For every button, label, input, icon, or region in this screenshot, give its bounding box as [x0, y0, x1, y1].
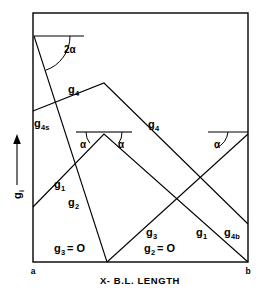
zero-label-g2-sub: 2 — [151, 248, 155, 257]
corner-label-b: b — [245, 266, 250, 276]
zero-label-g2-eq: = O — [157, 242, 175, 254]
angle-alpha-left-label: α — [80, 139, 87, 150]
curve-label-g1-left-base: g — [54, 178, 61, 190]
curve-label-g4s-sub: 4s — [41, 123, 49, 132]
curve-label-g4b-base: g — [224, 226, 231, 238]
arc-alpha-left — [86, 132, 90, 143]
line-g4 — [33, 83, 248, 224]
y-axis-arrow-head — [13, 134, 21, 144]
curve-label-g4s-base: g — [34, 117, 41, 129]
curve-label-g4-right-sub: 4 — [155, 124, 160, 133]
curve-label-g4-right-base: g — [148, 118, 155, 130]
zero-label-g3-eq: = O — [67, 242, 85, 254]
curve-label-g3-mid-sub: 3 — [153, 232, 157, 241]
curve-label-g4b-sub: 4b — [231, 232, 240, 241]
angle-2alpha-label: 2α — [64, 44, 77, 55]
curve-label-g1-right-sub: 1 — [203, 232, 207, 241]
y-axis-label-sub: i — [17, 190, 26, 192]
zero-label-g2-base: g — [144, 242, 151, 254]
line-g1 — [33, 134, 248, 262]
curve-label-g4s: g 4s — [34, 117, 49, 132]
curve-label-g1-right: g 1 — [196, 226, 207, 241]
y-axis-label-group: g i — [11, 190, 26, 199]
curve-label-g4-left-base: g — [68, 83, 75, 95]
curve-label-g4-right: g 4 — [148, 118, 160, 133]
curve-label-g3-mid: g 3 — [146, 226, 157, 241]
zero-label-g3-base: g — [54, 242, 61, 254]
curve-label-g4-left: g 4 — [68, 83, 80, 98]
curve-label-g2-left-sub: 2 — [75, 202, 79, 211]
corner-label-a: a — [31, 266, 36, 276]
figure-container: g i X- B.L. LENGTH a b 2α α α α g 4 g 4s… — [0, 0, 260, 298]
curve-label-g1-left: g 1 — [54, 178, 65, 193]
curve-label-g2-left: g 2 — [68, 196, 79, 211]
line-g4s — [34, 36, 107, 262]
curve-label-g4-left-sub: 4 — [75, 89, 80, 98]
curve-label-g3-mid-base: g — [146, 226, 153, 238]
zero-label-g3: g 3 = O — [54, 242, 85, 257]
curve-label-g1-right-base: g — [196, 226, 203, 238]
angle-alpha-mid-label: α — [118, 139, 125, 150]
curve-label-g1-left-sub: 1 — [61, 184, 65, 193]
y-axis-label: g — [11, 192, 23, 199]
zero-label-g2: g 2 = O — [144, 242, 175, 257]
diagram-svg: g i X- B.L. LENGTH a b 2α α α α g 4 g 4s… — [0, 0, 260, 298]
curve-label-g2-left-base: g — [68, 196, 75, 208]
zero-label-g3-sub: 3 — [61, 248, 65, 257]
curve-label-g4b: g 4b — [224, 226, 240, 241]
x-axis-label: X- B.L. LENGTH — [100, 275, 180, 286]
angle-alpha-right-label: α — [214, 139, 221, 150]
